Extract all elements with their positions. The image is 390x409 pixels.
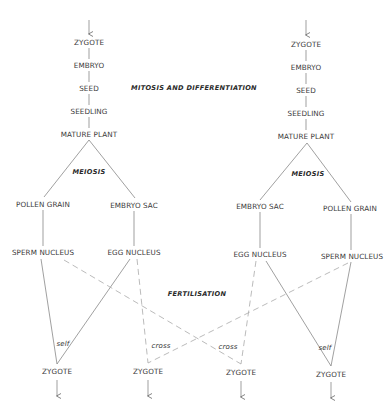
right-pollen-grain: POLLEN GRAIN — [323, 204, 377, 213]
right-embryo: EMBRYO — [291, 63, 321, 72]
left-mature-plant: MATURE PLANT — [61, 130, 117, 139]
cross-label-right: cross — [219, 343, 238, 351]
left-egg-nucleus: EGG NUCLEUS — [107, 248, 160, 257]
left-meiosis-label: MEIOSIS — [72, 168, 105, 176]
offspring-zygote-2: ZYGOTE — [133, 367, 163, 376]
right-zygote: ZYGOTE — [291, 40, 321, 49]
left-zygote: ZYGOTE — [74, 38, 104, 47]
right-seed: SEED — [296, 86, 316, 95]
right-seedling: SEEDLING — [287, 109, 324, 118]
left-seed: SEED — [79, 84, 99, 93]
right-meiosis-label: MEIOSIS — [291, 170, 324, 178]
offspring-zygote-1: ZYGOTE — [42, 367, 72, 376]
plant-life-cycle-diagram: ZYGOTE EMBRYO SEED SEEDLING MATURE PLANT… — [0, 0, 390, 409]
left-seedling: SEEDLING — [70, 107, 107, 116]
self-label-left: self — [57, 340, 70, 348]
right-mature-plant: MATURE PLANT — [278, 132, 334, 141]
fertilisation-label: FERTILISATION — [168, 290, 227, 298]
self-label-right: self — [319, 344, 332, 352]
offspring-zygote-4: ZYGOTE — [316, 370, 346, 379]
left-pollen-grain: POLLEN GRAIN — [16, 200, 70, 209]
cross-label-left: cross — [152, 342, 171, 350]
offspring-zygote-3: ZYGOTE — [226, 368, 256, 377]
mitosis-label: MITOSIS AND DIFFERENTIATION — [131, 84, 257, 92]
left-embryo-sac: EMBRYO SAC — [110, 201, 158, 210]
left-embryo: EMBRYO — [74, 61, 104, 70]
right-embryo-sac: EMBRYO SAC — [236, 202, 284, 211]
right-sperm-nucleus: SPERM NUCLEUS — [321, 252, 383, 261]
left-sperm-nucleus: SPERM NUCLEUS — [12, 248, 74, 257]
right-egg-nucleus: EGG NUCLEUS — [233, 250, 286, 259]
